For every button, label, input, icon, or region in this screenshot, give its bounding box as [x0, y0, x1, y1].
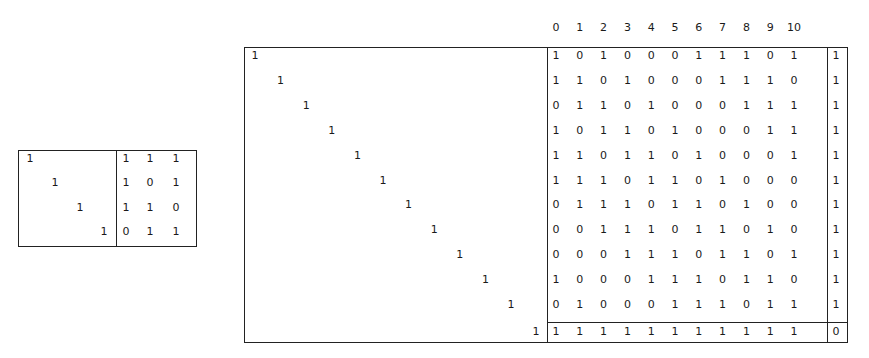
- identity-entry: 1: [248, 50, 262, 62]
- frame-right: [847, 47, 848, 343]
- matrix-entry: 0: [573, 274, 587, 286]
- parity-entry: 1: [829, 175, 843, 187]
- matrix-entry: 1: [573, 75, 587, 87]
- matrix-entry: 0: [573, 224, 587, 236]
- parity-entry: 1: [829, 50, 843, 62]
- matrix-entry: 1: [763, 75, 777, 87]
- matrix-entry: 0: [620, 50, 634, 62]
- matrix-entry: 1: [549, 274, 563, 286]
- matrix-entry: 0: [787, 274, 801, 286]
- matrix-entry: 1: [620, 224, 634, 236]
- matrix-entry: 0: [668, 150, 682, 162]
- column-header: 10: [785, 22, 803, 34]
- identity-entry: 1: [376, 175, 390, 187]
- matrix-entry: 0: [597, 150, 611, 162]
- column-header: 4: [642, 22, 660, 34]
- matrix-entry: 1: [549, 150, 563, 162]
- matrix-entry: 1: [739, 249, 753, 261]
- matrix-entry: 0: [620, 299, 634, 311]
- matrix-entry: 0: [549, 224, 563, 236]
- matrix-entry: 1: [597, 224, 611, 236]
- bottom-row-entry: 1: [692, 326, 706, 338]
- parity-entry: 1: [829, 249, 843, 261]
- bottom-row-entry: 1: [763, 326, 777, 338]
- parity-entry: 1: [169, 153, 183, 165]
- matrix-entry: 0: [692, 125, 706, 137]
- identity-entry: 1: [325, 125, 339, 137]
- identity-entry: 1: [529, 326, 543, 338]
- matrix-entry: 0: [716, 199, 730, 211]
- frame-bottom: [18, 246, 197, 247]
- matrix-entry: 1: [739, 199, 753, 211]
- matrix-entry: 1: [716, 75, 730, 87]
- column-header: 8: [737, 22, 755, 34]
- matrix-entry: 0: [692, 249, 706, 261]
- frame-top: [244, 47, 848, 48]
- matrix-entry: 1: [644, 100, 658, 112]
- parity-entry: 0: [143, 177, 157, 189]
- matrix-entry: 1: [787, 100, 801, 112]
- matrix-entry: 1: [763, 125, 777, 137]
- matrix-entry: 1: [787, 125, 801, 137]
- identity-entry: 1: [274, 75, 288, 87]
- column-header: 3: [618, 22, 636, 34]
- bottom-row-entry: 1: [597, 326, 611, 338]
- column-header: 7: [714, 22, 732, 34]
- matrix-entry: 1: [692, 199, 706, 211]
- column-header: 2: [595, 22, 613, 34]
- matrix-entry: 1: [692, 274, 706, 286]
- parity-divider: [827, 47, 828, 343]
- bottom-row-entry: 1: [620, 326, 634, 338]
- identity-entry: 1: [23, 153, 37, 165]
- matrix-entry: 1: [692, 224, 706, 236]
- matrix-entry: 0: [668, 50, 682, 62]
- matrix-entry: 0: [716, 100, 730, 112]
- matrix-entry: 1: [644, 274, 658, 286]
- matrix-entry: 0: [668, 100, 682, 112]
- identity-entry: 1: [299, 100, 313, 112]
- matrix-entry: 0: [620, 175, 634, 187]
- parity-entry: 1: [829, 125, 843, 137]
- matrix-entry: 1: [668, 299, 682, 311]
- identity-entry: 1: [350, 150, 364, 162]
- matrix-entry: 1: [763, 100, 777, 112]
- parity-entry: 1: [143, 202, 157, 214]
- column-header: 5: [666, 22, 684, 34]
- matrix-entry: 1: [716, 249, 730, 261]
- matrix-entry: 1: [692, 50, 706, 62]
- matrix-entry: 0: [763, 199, 777, 211]
- matrix-entry: 1: [597, 199, 611, 211]
- matrix-entry: 0: [739, 299, 753, 311]
- parity-entry: 1: [119, 202, 133, 214]
- matrix-entry: 1: [549, 125, 563, 137]
- matrix-entry: 0: [573, 50, 587, 62]
- bottom-row-entry: 1: [668, 326, 682, 338]
- matrix-entry: 0: [597, 299, 611, 311]
- matrix-entry: 0: [644, 125, 658, 137]
- matrix-entry: 1: [573, 175, 587, 187]
- matrix-entry: 0: [692, 75, 706, 87]
- parity-entry: 1: [829, 274, 843, 286]
- block-divider: [547, 47, 548, 343]
- matrix-entry: 1: [620, 75, 634, 87]
- matrix-entry: 1: [549, 50, 563, 62]
- matrix-entry: 0: [668, 224, 682, 236]
- column-header: 1: [571, 22, 589, 34]
- matrix-entry: 1: [716, 175, 730, 187]
- matrix-entry: 1: [763, 274, 777, 286]
- matrix-entry: 1: [573, 299, 587, 311]
- matrix-entry: 1: [668, 175, 682, 187]
- matrix-entry: 1: [620, 249, 634, 261]
- parity-entry: 1: [829, 150, 843, 162]
- matrix-entry: 0: [692, 175, 706, 187]
- parity-entry: 1: [169, 226, 183, 238]
- matrix-entry: 0: [644, 199, 658, 211]
- matrix-entry: 1: [787, 150, 801, 162]
- corner-entry: 0: [829, 326, 843, 338]
- identity-entry: 1: [453, 249, 467, 261]
- matrix-entry: 1: [739, 75, 753, 87]
- matrix-entry: 1: [716, 224, 730, 236]
- matrix-entry: 0: [597, 249, 611, 261]
- matrix-entry: 0: [573, 249, 587, 261]
- column-header: 9: [761, 22, 779, 34]
